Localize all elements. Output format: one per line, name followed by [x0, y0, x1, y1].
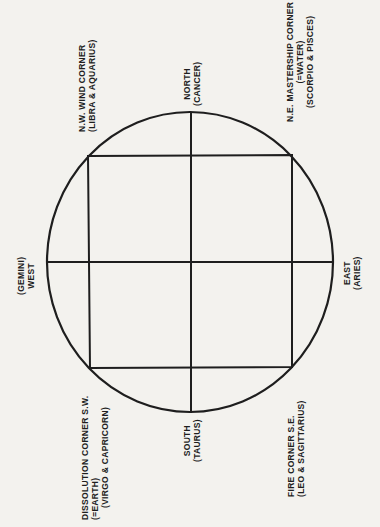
ne-element: (=WATER) — [295, 2, 305, 122]
east-title: EAST — [342, 256, 352, 290]
sw-signs: (VIRGO & CAPRICORN) — [100, 396, 110, 521]
label-southeast: FIRE CORNER S.E. (LEO & SAGITTARIUS) — [286, 400, 306, 497]
west-title: WEST — [26, 257, 36, 295]
label-northwest: N.W. WIND CORNER (LIBRA & AQUARIUS) — [77, 39, 97, 132]
label-north: NORTH (CANCER) — [182, 62, 202, 106]
east-sign: (ARIES) — [352, 256, 362, 290]
label-east: EAST (ARIES) — [342, 256, 362, 290]
west-sign: (GEMINI) — [16, 257, 26, 295]
north-title: NORTH — [182, 62, 192, 106]
north-sign: (CANCER) — [192, 62, 202, 106]
ne-title: N.E. MASTERSHIP CORNER — [285, 2, 295, 122]
sw-title: DISSOLUTION CORNER S.W. — [80, 396, 90, 521]
se-title: FIRE CORNER S.E. — [286, 400, 296, 497]
se-signs: (LEO & SAGITTARIUS) — [296, 400, 306, 497]
sw-element: (=EARTH) — [90, 396, 100, 521]
label-northeast: N.E. MASTERSHIP CORNER (=WATER) (SCORPIO… — [285, 2, 315, 122]
label-west: (GEMINI) WEST — [16, 257, 36, 295]
ne-signs: (SCORPIO & PISCES) — [305, 2, 315, 122]
nw-title: N.W. WIND CORNER — [77, 39, 87, 132]
nw-signs: (LIBRA & AQUARIUS) — [87, 39, 97, 132]
south-title: SOUTH — [182, 419, 192, 462]
south-sign: (TAURUS) — [192, 419, 202, 462]
label-south: SOUTH (TAURUS) — [182, 419, 202, 462]
label-southwest: DISSOLUTION CORNER S.W. (=EARTH) (VIRGO … — [80, 396, 110, 521]
